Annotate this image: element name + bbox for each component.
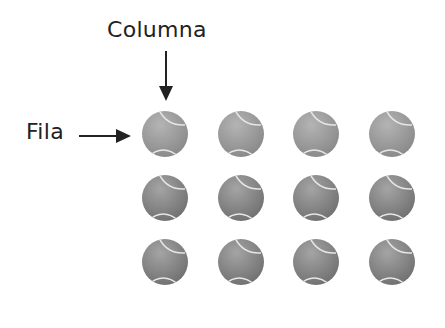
tennis-ball-icon	[141, 174, 189, 222]
tennis-ball-icon	[217, 110, 265, 158]
tennis-ball-icon	[141, 110, 189, 158]
tennis-ball-icon	[368, 238, 416, 286]
tennis-ball-icon	[292, 110, 340, 158]
tennis-ball-icon	[368, 110, 416, 158]
tennis-ball-icon	[292, 174, 340, 222]
tennis-ball-icon	[217, 174, 265, 222]
tennis-ball-icon	[217, 238, 265, 286]
column-arrow-icon	[159, 51, 173, 101]
row-arrow-icon	[79, 129, 131, 143]
tennis-ball-icon	[292, 238, 340, 286]
tennis-ball-icon	[368, 174, 416, 222]
tennis-ball-icon	[141, 238, 189, 286]
